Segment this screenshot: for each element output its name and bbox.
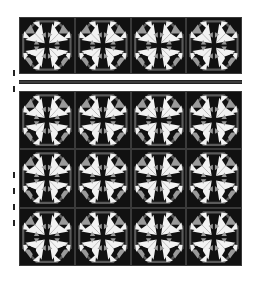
quilt-block (75, 91, 131, 149)
quilt-block (131, 91, 187, 149)
quilt-block (19, 149, 75, 207)
edge-tick-mark (13, 204, 15, 210)
edge-tick-mark (13, 220, 15, 226)
quilt-block (75, 208, 131, 266)
edge-tick-mark (13, 86, 15, 92)
quilt-block (186, 149, 242, 207)
quilt-block (186, 17, 242, 74)
edge-tick-mark (13, 188, 15, 194)
quilt-block (131, 208, 187, 266)
edge-tick-mark (13, 172, 15, 178)
quilt-block (75, 17, 131, 74)
quilt-block (19, 208, 75, 266)
quilt-block (19, 17, 75, 74)
quilt-block (186, 91, 242, 149)
quilt-block (131, 149, 187, 207)
quilt-block (75, 149, 131, 207)
sashing-strip (19, 80, 242, 84)
quilt-block (186, 208, 242, 266)
quilt-row-top (19, 17, 242, 74)
quilt-block (131, 17, 187, 74)
quilt-grid-main (19, 91, 242, 266)
edge-tick-mark (13, 70, 15, 76)
quilt-block (19, 91, 75, 149)
